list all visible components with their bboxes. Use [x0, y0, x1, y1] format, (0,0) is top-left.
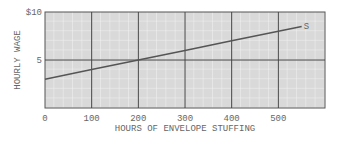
x-axis-label: HOURS OF ENVELOPE STUFFING — [115, 124, 255, 134]
y-axis-label: HOURLY WAGE — [13, 30, 23, 89]
x-axis-ticks: 0100200300400500 — [42, 114, 286, 124]
svg-text:0: 0 — [42, 114, 47, 124]
svg-text:200: 200 — [130, 114, 146, 124]
y-axis-ticks: 5$10 — [26, 8, 42, 66]
svg-text:500: 500 — [270, 114, 286, 124]
labor-supply-chart: S 0100200300400500 5$10 HOURS OF ENVELOP… — [0, 0, 338, 147]
supply-curve-label: S — [304, 22, 309, 32]
svg-text:$10: $10 — [26, 8, 42, 18]
svg-text:5: 5 — [37, 56, 42, 66]
svg-text:400: 400 — [224, 114, 240, 124]
svg-text:300: 300 — [177, 114, 193, 124]
svg-text:100: 100 — [84, 114, 100, 124]
